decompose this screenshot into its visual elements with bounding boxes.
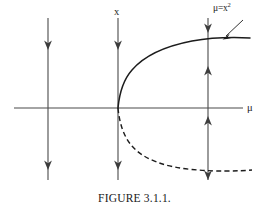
axis-label-mu: μ [247, 103, 253, 114]
flow-line-right [204, 18, 212, 180]
axis-label-x: x [114, 7, 119, 18]
bifurcation-diagram [0, 0, 269, 217]
flow-line-center [114, 18, 122, 180]
flow-line-left [44, 18, 52, 180]
curve-equation-label: μ=x2 [213, 4, 231, 14]
curve-label-leader-line [226, 20, 243, 36]
curve-equation-base: μ=x [213, 3, 228, 13]
figure-container: x μ μ=x2 FIGURE 3.1.1. [0, 0, 269, 217]
leader-arrow-icon [223, 34, 232, 40]
unstable-branch-curve [118, 108, 252, 171]
stable-branch-curve [118, 38, 250, 108]
curve-equation-exponent: 2 [228, 1, 231, 8]
figure-caption: FIGURE 3.1.1. [0, 192, 269, 204]
